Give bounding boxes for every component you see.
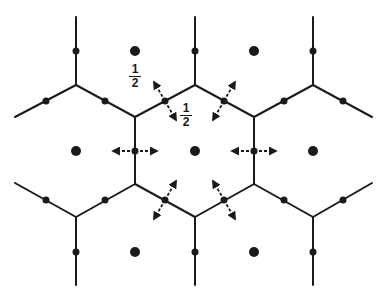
- boundary-atom: [310, 48, 317, 55]
- boundary-atom: [192, 249, 199, 256]
- lattice-atom: [308, 146, 318, 156]
- boundary-atom: [251, 148, 258, 155]
- boundary-atom: [43, 197, 50, 204]
- half-label-2-denominator: 2: [180, 116, 192, 128]
- lattice-atom: [249, 46, 259, 56]
- half-label-1-denominator: 2: [129, 77, 141, 89]
- half-label-1: 1 2: [129, 64, 141, 89]
- half-label-2: 1 2: [180, 103, 192, 128]
- boundary-atom: [221, 197, 228, 204]
- boundary-atom: [43, 98, 50, 105]
- lattice-atom: [249, 247, 259, 257]
- lattice-atom: [130, 247, 140, 257]
- boundary-atom: [162, 197, 169, 204]
- boundary-atom: [340, 197, 347, 204]
- lattice-atom: [71, 146, 81, 156]
- boundary-atom: [281, 98, 288, 105]
- boundary-atom: [102, 98, 109, 105]
- boundary-atom: [162, 98, 169, 105]
- boundary-atom: [192, 48, 199, 55]
- lattice-atom: [190, 146, 200, 156]
- boundary-atom: [73, 48, 80, 55]
- boundary-atom: [281, 197, 288, 204]
- boundary-atom: [132, 148, 139, 155]
- boundary-atom: [221, 98, 228, 105]
- hexagonal-lattice-diagram: [0, 0, 377, 299]
- boundary-atom: [102, 197, 109, 204]
- boundary-atom: [310, 249, 317, 256]
- boundary-atom: [73, 249, 80, 256]
- lattice-atom: [130, 46, 140, 56]
- boundary-atom: [340, 98, 347, 105]
